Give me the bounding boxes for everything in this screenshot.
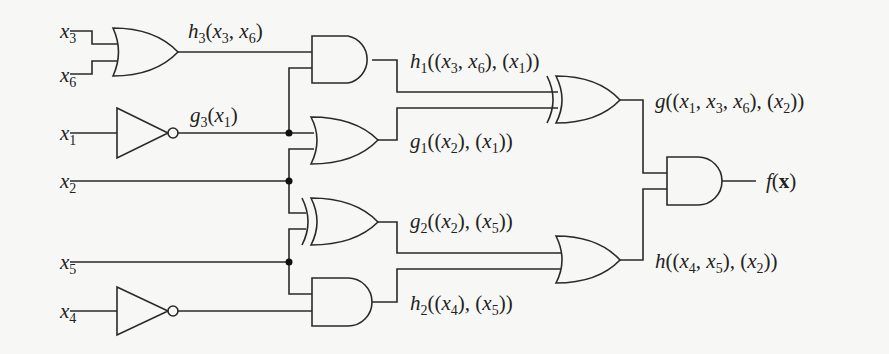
wire-x6 (70, 61, 118, 74)
wire-x5-to-g2 (289, 229, 306, 262)
label-g1: g1((x2), (x1)) (410, 129, 513, 156)
input-label-x4: x4 (59, 299, 76, 326)
label-h2: h2((x4), (x5)) (410, 291, 513, 318)
not-gate-x4 (117, 287, 178, 335)
input-label-x5: x5 (59, 250, 76, 277)
label-h: h((x4, x5), (x2)) (655, 249, 777, 276)
label-h1: h1((x3, x6), (x1)) (410, 49, 539, 76)
wire-x3 (70, 31, 118, 44)
not-gate-g3 (117, 108, 178, 158)
wire-x5-to-h2 (289, 262, 312, 294)
wire-x2-to-g2 (289, 181, 306, 213)
input-label-x2: x2 (59, 169, 76, 196)
label-g2: g2((x2), (x5)) (410, 209, 513, 236)
wires (70, 31, 756, 311)
wire-g3-to-h1 (289, 68, 312, 133)
label-g: g((x1, x3, x6), (x2)) (655, 89, 804, 116)
xor-gate-g2 (302, 198, 378, 245)
input-label-x6: x6 (59, 63, 76, 90)
and-gate-h2 (312, 278, 372, 326)
input-label-x3: x3 (59, 19, 76, 46)
input-label-x1: x1 (59, 121, 76, 148)
or-gate-h3 (113, 28, 178, 76)
junction-dot-x2 (286, 178, 293, 185)
or-gate-h (556, 236, 620, 283)
label-f-output: f(x) (766, 169, 796, 193)
logic-circuit-diagram: x3 x6 x1 x2 x5 x4 (0, 0, 889, 354)
junction-dot-x5 (286, 259, 293, 266)
wire-x2-to-g1 (289, 149, 314, 181)
xor-gate-g (547, 76, 620, 123)
or-gate-g1 (311, 117, 378, 164)
and-gate-f (667, 157, 722, 205)
label-g3: g3(x1) (190, 103, 238, 130)
label-h3: h3(x3, x6) (188, 19, 263, 46)
and-gate-h1 (312, 36, 367, 83)
junction-dot-x1 (286, 130, 293, 137)
